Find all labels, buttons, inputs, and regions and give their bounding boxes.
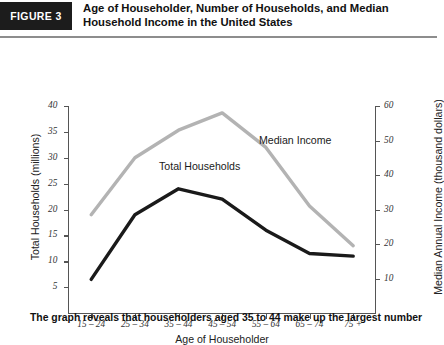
header-divider <box>0 36 437 38</box>
chart-area: Total Households (millions) Median Annua… <box>0 41 437 299</box>
figure-title: Age of Householder, Number of Households… <box>83 2 433 29</box>
median-income-annotation: Median Income <box>259 134 331 146</box>
total-households-annotation: Total Households <box>159 160 240 172</box>
figure-number-badge: FIGURE 3 <box>0 2 72 30</box>
total-households-line <box>91 189 353 280</box>
median-income-line <box>91 113 353 246</box>
figure-number-label: FIGURE 3 <box>10 10 62 22</box>
figure-header: FIGURE 3 Age of Householder, Number of H… <box>0 0 437 41</box>
figure-caption: The graph reveals that householders aged… <box>30 311 430 324</box>
x-axis-title: Age of Householder <box>68 333 376 345</box>
